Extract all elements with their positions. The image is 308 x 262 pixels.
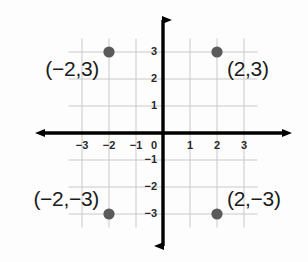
x-tick-label-1: 1 [187,140,193,151]
data-point-3 [211,208,222,219]
x-tick-label--1: −1 [130,140,143,151]
y-tick-label-2: 2 [151,73,157,84]
origin-tick-label: 0 [151,140,157,151]
coordinate-plane-figure: −3−2−1123321−1−2−30 (−2,3) (2,3) (−2,−3)… [0,0,308,262]
data-point-2 [103,208,114,219]
point-label-top-right: (2,3) [227,58,269,79]
point-label-bottom-left: (−2,−3) [33,188,99,209]
x-tick-label-3: 3 [241,140,247,151]
data-point-0 [103,46,114,57]
x-tick-label--2: −2 [103,140,116,151]
data-point-1 [211,46,222,57]
y-tick-label-1: 1 [151,100,157,111]
point-label-top-left: (−2,3) [45,58,99,79]
x-tick-label--3: −3 [76,140,89,151]
plot-canvas [0,0,308,262]
y-tick-label--2: −2 [144,181,157,192]
y-tick-label--1: −1 [144,154,157,165]
y-tick-label-3: 3 [151,46,157,57]
x-tick-label-2: 2 [214,140,220,151]
y-tick-label--3: −3 [144,208,157,219]
point-label-bottom-right: (2,−3) [227,188,281,209]
